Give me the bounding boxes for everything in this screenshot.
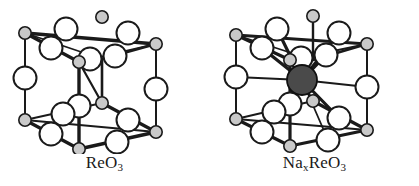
rhenium-atom [361, 38, 373, 50]
oxygen-atom [117, 109, 140, 132]
oxygen-atom [317, 129, 340, 152]
rhenium-atom [361, 124, 373, 136]
rhenium-atom [307, 95, 319, 107]
caption-reo3-main: ReO [86, 153, 118, 172]
oxygen-atom [52, 103, 75, 126]
oxygen-atom [251, 121, 274, 144]
oxygen-atom [315, 44, 338, 67]
reo3-unit-cell-diagram [0, 2, 209, 154]
oxygen-atom [328, 22, 351, 45]
rhenium-atom [19, 114, 31, 126]
rhenium-atom [230, 113, 242, 125]
oxygen-atom [106, 131, 129, 154]
caption-naxreo3-main-reo: ReO [309, 153, 341, 172]
rhenium-atom [307, 10, 319, 22]
rhenium-atom [150, 38, 162, 50]
oxygen-atom [263, 101, 286, 124]
rhenium-atom [230, 29, 242, 41]
oxygen-atom [40, 37, 63, 60]
caption-reo3-sub: 3 [118, 161, 124, 173]
caption-naxreo3-sub-3: 3 [341, 161, 347, 173]
rhenium-atom [19, 27, 31, 39]
oxygen-atom [251, 37, 274, 60]
oxygen-atom [145, 78, 168, 101]
caption-naxreo3: NaxReO3 [210, 152, 419, 174]
caption-reo3: ReO3 [0, 152, 209, 174]
naxreo3-unit-cell-diagram [210, 2, 419, 154]
oxygen-atom [328, 107, 351, 130]
panel-reo3: ReO3 [0, 0, 209, 186]
oxygen-atom [55, 18, 78, 41]
oxygen-atom [225, 66, 248, 89]
rhenium-atom [284, 140, 296, 152]
oxygen-atom [104, 45, 127, 68]
oxygen-atom [40, 123, 63, 146]
rhenium-atom [284, 54, 296, 66]
oxygen-atom [266, 18, 289, 41]
oxygen-atom [14, 67, 37, 90]
caption-naxreo3-main-na: Na [283, 153, 303, 172]
caption-naxreo3-sub-x: x [303, 161, 309, 173]
oxygen-atom [117, 22, 140, 45]
sodium-atom [287, 65, 317, 95]
rhenium-atom [96, 11, 108, 23]
panel-naxreo3: NaxReO3 [210, 0, 419, 186]
crystal-structure-figure: ReO3 [0, 0, 419, 186]
rhenium-atom [96, 97, 108, 109]
rhenium-atom [73, 56, 85, 68]
rhenium-atom [150, 126, 162, 138]
oxygen-atom [356, 76, 379, 99]
